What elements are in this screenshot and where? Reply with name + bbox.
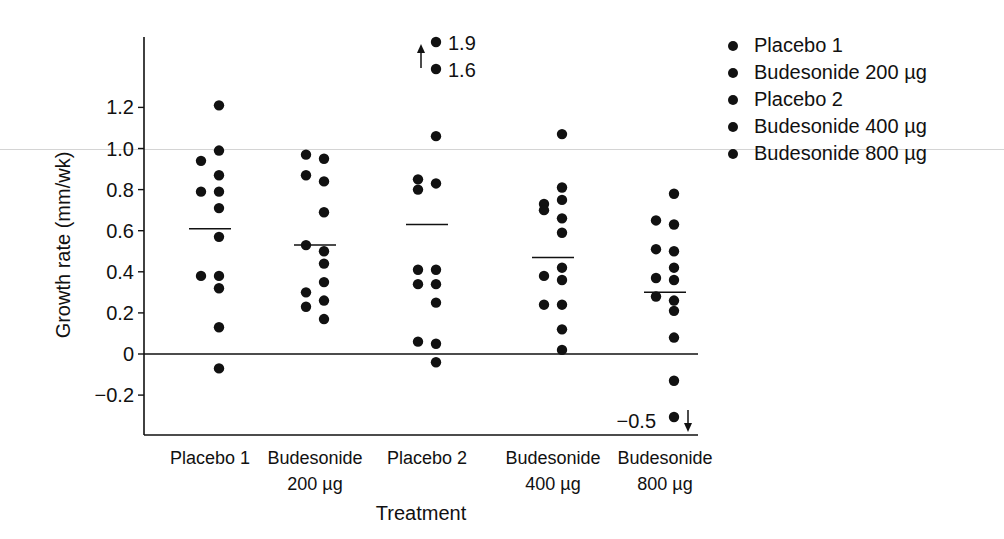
annotation-label: 1.9 — [448, 32, 476, 54]
data-point — [319, 258, 329, 268]
data-point — [214, 203, 224, 213]
y-tick-label: 0.8 — [106, 179, 134, 201]
x-axis-labels: Placebo 1Budesonide200 µgPlacebo 2Budeso… — [170, 448, 713, 494]
data-point — [413, 336, 423, 346]
x-tick-label: Budesonide — [617, 448, 712, 468]
data-point — [669, 262, 679, 272]
y-tick-label: 1.2 — [106, 96, 134, 118]
y-tick-label: 0 — [123, 343, 134, 365]
data-point — [431, 339, 441, 349]
y-axis-ticks: −0.200.20.40.60.81.01.2 — [95, 96, 144, 406]
data-point — [557, 195, 567, 205]
data-point — [431, 279, 441, 289]
legend-label: Budesonide 200 µg — [754, 59, 927, 86]
annotation-label: −0.5 — [617, 410, 656, 432]
data-point — [557, 345, 567, 355]
data-point — [669, 295, 679, 305]
data-point — [214, 100, 224, 110]
data-point — [651, 244, 661, 254]
data-point — [214, 322, 224, 332]
legend-dot-icon — [728, 95, 738, 105]
data-point — [651, 273, 661, 283]
data-point — [557, 213, 567, 223]
data-point — [557, 299, 567, 309]
data-point — [301, 287, 311, 297]
data-point — [557, 275, 567, 285]
data-point — [413, 279, 423, 289]
arrow-down-icon — [684, 423, 692, 432]
y-axis-title: Growth rate (mm/wk) — [52, 152, 74, 339]
data-point — [319, 176, 329, 186]
data-points — [196, 100, 679, 386]
legend-label: Placebo 1 — [754, 32, 843, 59]
x-tick-label: Placebo 2 — [387, 448, 467, 468]
data-point — [557, 129, 567, 139]
data-point — [196, 186, 206, 196]
data-point — [413, 184, 423, 194]
data-point — [413, 265, 423, 275]
x-tick-label: Placebo 1 — [170, 448, 250, 468]
data-point — [557, 182, 567, 192]
data-point — [651, 215, 661, 225]
y-tick-label: 1.0 — [106, 138, 134, 160]
data-point — [669, 275, 679, 285]
legend-label: Budesonide 800 µg — [754, 140, 927, 167]
data-point — [539, 205, 549, 215]
data-point — [557, 324, 567, 334]
x-tick-label-line2: 400 µg — [525, 474, 580, 494]
data-point — [301, 170, 311, 180]
data-point — [557, 228, 567, 238]
data-point — [539, 271, 549, 281]
legend-label: Budesonide 400 µg — [754, 113, 927, 140]
x-axis-title: Treatment — [376, 502, 467, 524]
data-point — [539, 299, 549, 309]
data-point — [319, 314, 329, 324]
legend-label: Placebo 2 — [754, 86, 843, 113]
x-tick-label-line2: 200 µg — [287, 474, 342, 494]
data-point — [431, 297, 441, 307]
annotation-label: 1.6 — [448, 59, 476, 81]
data-point — [301, 149, 311, 159]
data-point — [319, 207, 329, 217]
data-point — [431, 178, 441, 188]
y-tick-label: 0.4 — [106, 261, 134, 283]
data-point — [431, 357, 441, 367]
data-point — [214, 271, 224, 281]
x-tick-label: Budesonide — [505, 448, 600, 468]
data-point — [669, 306, 679, 316]
data-point — [196, 271, 206, 281]
axes — [144, 37, 698, 435]
data-point — [669, 332, 679, 342]
off-scale-point — [431, 64, 441, 74]
y-tick-label: −0.2 — [95, 384, 134, 406]
data-point — [319, 246, 329, 256]
data-point — [431, 131, 441, 141]
data-point — [669, 189, 679, 199]
data-point — [214, 232, 224, 242]
annotations: 1.91.6−0.5 — [417, 32, 692, 432]
data-point — [214, 283, 224, 293]
x-tick-label: Budesonide — [267, 448, 362, 468]
off-scale-point — [669, 412, 679, 422]
x-tick-label-line2: 800 µg — [637, 474, 692, 494]
data-point — [319, 277, 329, 287]
data-point — [196, 156, 206, 166]
data-point — [319, 295, 329, 305]
off-scale-point — [431, 37, 441, 47]
y-tick-label: 0.6 — [106, 220, 134, 242]
data-point — [669, 219, 679, 229]
legend-dot-icon — [728, 68, 738, 78]
data-point — [669, 246, 679, 256]
data-point — [301, 302, 311, 312]
legend-dot-icon — [728, 41, 738, 51]
data-point — [557, 262, 567, 272]
data-point — [319, 154, 329, 164]
legend-dot-icon — [728, 122, 738, 132]
data-point — [214, 186, 224, 196]
data-point — [214, 170, 224, 180]
data-point — [669, 376, 679, 386]
data-point — [214, 363, 224, 373]
y-tick-label: 0.2 — [106, 302, 134, 324]
data-point — [214, 145, 224, 155]
arrow-up-icon — [417, 44, 425, 53]
